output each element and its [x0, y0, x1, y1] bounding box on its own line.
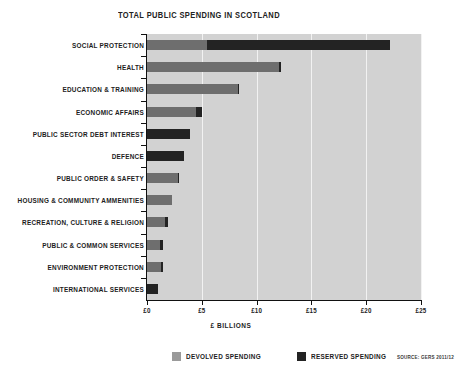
stacked-bar: [147, 284, 158, 294]
y-axis-tick: [141, 234, 147, 235]
bar-segment-reserved: [165, 217, 168, 227]
bar-segment-devolved: [147, 107, 196, 117]
stacked-bar: [147, 84, 239, 94]
stacked-bar: [147, 107, 202, 117]
bar-segment-reserved: [147, 151, 184, 161]
bar-segment-reserved: [147, 284, 158, 294]
bar-row: HOUSING & COMMUNITY AMMENITIES: [0, 189, 462, 211]
y-axis-tick: [141, 189, 147, 190]
legend-swatch-devolved: [172, 352, 181, 361]
stacked-bar: [147, 217, 168, 227]
bar-row: INTERNATIONAL SERVICES: [0, 278, 462, 300]
x-axis-tick-label: £25: [411, 306, 431, 314]
x-axis-tick: [311, 300, 312, 305]
chart-title: TOTAL PUBLIC SPENDING IN SCOTLAND: [118, 10, 280, 21]
bar-row: PUBLIC SECTOR DEBT INTEREST: [0, 123, 462, 145]
bar-segment-devolved: [147, 240, 160, 250]
bar-segment-devolved: [147, 173, 178, 183]
bar-segment-devolved: [147, 262, 161, 272]
y-axis-tick: [141, 145, 147, 146]
y-axis-tick: [141, 78, 147, 79]
bar-row: RECREATION, CULTURE & RELIGION: [0, 211, 462, 233]
bar-segment-devolved: [147, 40, 207, 50]
bar-row: ENVIRONMENT PROTECTION: [0, 256, 462, 278]
bar-segment-devolved: [147, 195, 172, 205]
stacked-bar: [147, 62, 281, 72]
legend-label: DEVOLVED SPENDING: [186, 352, 261, 360]
y-axis-tick: [141, 56, 147, 57]
x-axis-title: £ BILLIONS: [0, 321, 462, 329]
y-axis-tick: [141, 256, 147, 257]
bar-segment-devolved: [147, 62, 279, 72]
bar-row: PUBLIC & COMMON SERVICES: [0, 234, 462, 256]
bar-segment-devolved: [147, 84, 238, 94]
x-axis-line: [146, 300, 421, 301]
category-label: DEFENCE: [112, 152, 144, 160]
stacked-bar: [147, 195, 172, 205]
category-label: HEALTH: [117, 63, 144, 71]
bar-row: SOCIAL PROTECTION: [0, 34, 462, 56]
y-axis-tick: [141, 123, 147, 124]
source-note: SOURCE: GERS 2011/12: [397, 354, 454, 360]
category-label: HOUSING & COMMUNITY AMMENITIES: [18, 196, 144, 204]
stacked-bar: [147, 240, 163, 250]
stacked-bar: [147, 129, 190, 139]
bar-row: HEALTH: [0, 56, 462, 78]
category-label: SOCIAL PROTECTION: [72, 41, 144, 49]
legend-item[interactable]: DEVOLVED SPENDING: [172, 352, 261, 361]
x-axis-tick-label: £0: [137, 306, 157, 314]
y-axis-tick: [141, 167, 147, 168]
bar-row: ECONOMIC AFFAIRS: [0, 101, 462, 123]
x-axis-tick: [366, 300, 367, 305]
x-axis-tick-label: £10: [247, 306, 267, 314]
category-label: PUBLIC ORDER & SAFETY: [57, 174, 144, 182]
x-axis-tick: [421, 300, 422, 305]
category-label: PUBLIC & COMMON SERVICES: [42, 241, 144, 249]
category-label: INTERNATIONAL SERVICES: [53, 285, 144, 293]
stacked-bar: [147, 151, 184, 161]
bar-segment-reserved: [147, 129, 190, 139]
stacked-bar: [147, 173, 179, 183]
category-label: RECREATION, CULTURE & RELIGION: [22, 218, 144, 226]
category-label: PUBLIC SECTOR DEBT INTEREST: [33, 130, 144, 138]
x-axis-tick: [147, 300, 148, 305]
x-axis-tick-label: £15: [301, 306, 321, 314]
chart-container: TOTAL PUBLIC SPENDING IN SCOTLAND SOCIAL…: [0, 0, 462, 379]
bar-segment-reserved: [238, 84, 239, 94]
bar-segment-devolved: [147, 217, 165, 227]
bar-row: EDUCATION & TRAINING: [0, 78, 462, 100]
bar-segment-reserved: [279, 62, 281, 72]
y-axis-tick: [141, 278, 147, 279]
legend-label: RESERVED SPENDING: [311, 352, 386, 360]
legend-swatch-reserved: [297, 352, 306, 361]
bar-segment-reserved: [161, 262, 163, 272]
bar-row: DEFENCE: [0, 145, 462, 167]
y-axis-tick: [141, 34, 147, 35]
category-label: ENVIRONMENT PROTECTION: [48, 263, 144, 271]
bar-segment-reserved: [178, 173, 179, 183]
bar-segment-reserved: [196, 107, 201, 117]
chart-legend: DEVOLVED SPENDINGRESERVED SPENDING: [147, 352, 421, 364]
category-label: EDUCATION & TRAINING: [62, 85, 144, 93]
stacked-bar: [147, 262, 163, 272]
bar-row: PUBLIC ORDER & SAFETY: [0, 167, 462, 189]
x-axis-tick-label: £5: [192, 306, 212, 314]
x-axis-tick-label: £20: [356, 306, 376, 314]
legend-item[interactable]: RESERVED SPENDING: [297, 352, 386, 361]
stacked-bar: [147, 40, 390, 50]
category-label: ECONOMIC AFFAIRS: [76, 108, 144, 116]
x-axis-tick: [257, 300, 258, 305]
bar-segment-reserved: [160, 240, 163, 250]
y-axis-tick: [141, 211, 147, 212]
x-axis-tick: [202, 300, 203, 305]
y-axis-tick: [141, 101, 147, 102]
bar-segment-reserved: [207, 40, 390, 50]
